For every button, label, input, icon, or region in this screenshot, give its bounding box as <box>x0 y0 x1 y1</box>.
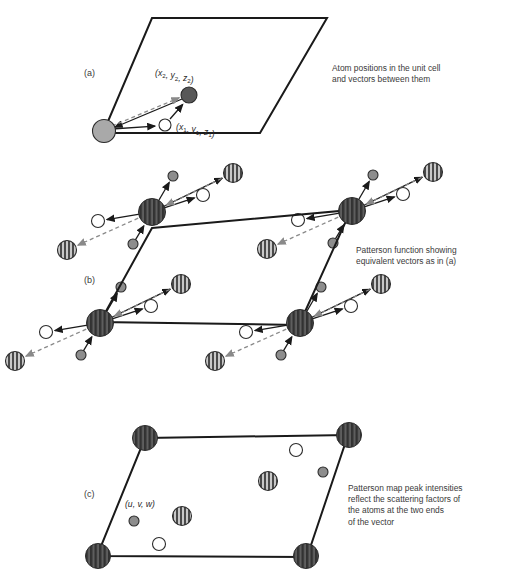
unit-cell-outline <box>103 18 327 133</box>
patterson-figure: (a)Atom positions in the unit celland ve… <box>0 0 505 581</box>
cluster-vector-from-small-lower-3 <box>283 337 292 353</box>
atom-2-dark <box>181 87 197 103</box>
patterson-corner-top-left <box>139 199 166 226</box>
vector-dark-to-origin <box>115 99 182 127</box>
satellite-small-gray-lower-3 <box>276 350 286 360</box>
satellite-white-right-2 <box>145 300 158 313</box>
satellite-striped-upper-right-1 <box>424 163 443 182</box>
panel-a: (a)Atom positions in the unit celland ve… <box>84 18 441 143</box>
peak-striped-upper <box>259 472 278 491</box>
patterson-corner-bottom-left <box>87 310 114 337</box>
peak-small-gray-lower <box>129 516 139 526</box>
vector-white-to-dark <box>170 105 183 119</box>
patterson-cell-outline <box>100 210 351 325</box>
panel-b: (b)Patterson function showingequivalent … <box>6 163 457 371</box>
map-corner-top-left <box>133 426 158 451</box>
caption-line: Patterson map peak intensities <box>348 483 463 493</box>
peak-white-lower <box>153 538 166 551</box>
caption-line: Atom positions in the unit cell <box>332 63 441 73</box>
coord-uvw: (u, v, w) <box>125 499 155 509</box>
satellite-white-left-2 <box>40 326 53 339</box>
patterson-corner-top-right <box>339 198 366 225</box>
satellite-white-right-0 <box>197 189 210 202</box>
satellite-white-right-1 <box>397 188 410 201</box>
peak-striped-lower <box>173 507 192 526</box>
satellite-striped-lower-left-0 <box>58 241 77 260</box>
origin-atom <box>93 120 116 143</box>
panel-c: (c)Patterson map peak intensitiesreflect… <box>84 423 463 569</box>
satellite-striped-upper-right-2 <box>172 275 191 294</box>
panel-a-caption: Atom positions in the unit celland vecto… <box>332 63 441 84</box>
satellite-small-gray-upper-0 <box>168 171 178 181</box>
caption-line: and vectors between them <box>332 74 430 84</box>
satellite-striped-lower-left-3 <box>206 352 225 371</box>
panel-b-caption: Patterson function showingequivalent vec… <box>356 245 457 266</box>
patterson-map-outline <box>97 435 348 557</box>
coord-part: ) <box>211 129 215 139</box>
satellite-striped-upper-right-0 <box>224 164 243 183</box>
caption-line: reflect the scattering factors of <box>348 494 461 504</box>
satellite-small-gray-upper-1 <box>368 170 378 180</box>
map-corner-top-right <box>337 423 362 448</box>
map-corner-bottom-right <box>294 544 319 569</box>
panel-label-a: (a) <box>84 68 95 78</box>
cluster-vector-from-small-lower-0 <box>135 226 144 242</box>
atom-1-white <box>159 119 171 131</box>
caption-line: of the vector <box>348 517 394 527</box>
coord-x1y1z1: (x1, y1, z1) <box>176 122 215 139</box>
panel-c-caption: Patterson map peak intensitiesreflect th… <box>348 483 463 527</box>
coord-x2y2z2: (x2, y2, z2) <box>155 68 194 85</box>
satellite-striped-lower-left-2 <box>6 352 25 371</box>
caption-line: the atoms at the two ends <box>348 505 444 515</box>
panel-label-c: (c) <box>84 489 95 499</box>
cluster-vector-from-small-lower-2 <box>83 337 92 353</box>
peak-white-upper <box>290 444 303 457</box>
satellite-small-gray-lower-0 <box>128 239 138 249</box>
vector-origin-to-white <box>112 126 155 129</box>
satellite-white-left-3 <box>240 326 253 339</box>
satellite-small-gray-lower-2 <box>76 350 86 360</box>
caption-line: equivalent vectors as in (a) <box>356 256 456 266</box>
satellite-white-right-3 <box>345 300 358 313</box>
patterson-corner-bottom-right <box>287 310 314 337</box>
caption-line: Patterson function showing <box>356 245 457 255</box>
map-corner-bottom-left <box>86 544 111 569</box>
satellite-striped-lower-left-1 <box>258 240 277 259</box>
panel-label-b: (b) <box>84 275 95 285</box>
satellite-white-left-0 <box>92 215 105 228</box>
coord-part: ) <box>190 75 194 85</box>
peak-small-gray-upper <box>318 467 328 477</box>
satellite-striped-upper-right-3 <box>372 275 391 294</box>
